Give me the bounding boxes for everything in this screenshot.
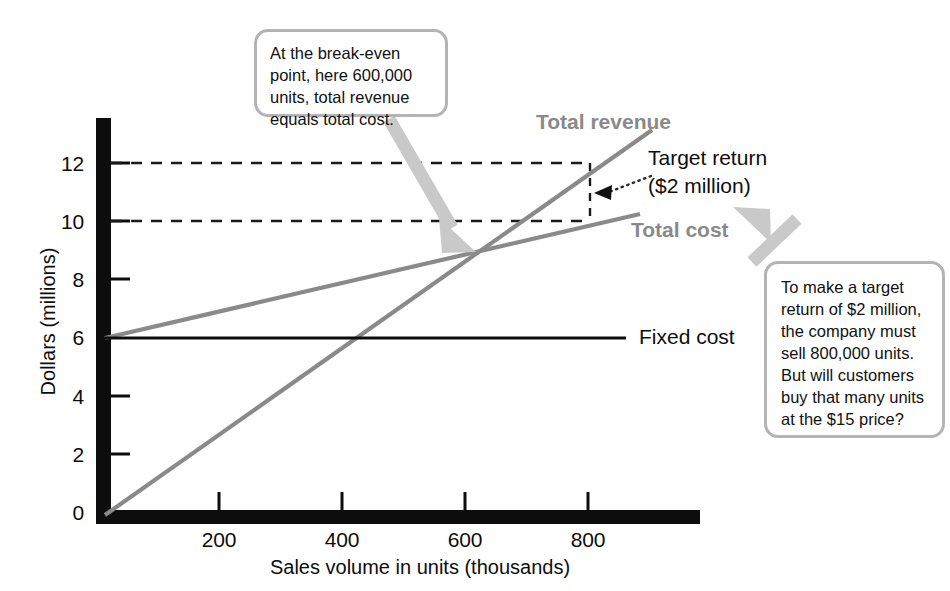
total-revenue-line: [105, 130, 652, 515]
x-tick-label-600: 600: [430, 528, 500, 552]
callout-target-return: To make a target return of $2 million, t…: [764, 261, 945, 438]
x-tick-label-800: 800: [553, 528, 623, 552]
x-axis-spine: [96, 510, 700, 524]
fixed-cost-label: Fixed cost: [639, 325, 735, 349]
target-return-label-line2: ($2 million): [648, 173, 751, 200]
y-axis-title: Dollars (millions): [37, 212, 60, 432]
y-tick-label-12: 12: [38, 152, 84, 176]
y-axis-spine: [96, 118, 111, 518]
y-tick-label-0: 0: [38, 501, 84, 525]
callout-target-return-text: To make a target return of $2 million, t…: [781, 277, 928, 431]
x-tick-label-400: 400: [307, 528, 377, 552]
target-pointer-arrow: [733, 207, 797, 262]
x-axis-ticks: [219, 492, 588, 511]
breakeven-chart-figure: 12 10 8 6 4 2 0 200 400 600 800 Sales vo…: [0, 0, 950, 591]
target-return-label-line1: Target return: [648, 145, 767, 172]
total-cost-line: [105, 214, 640, 338]
x-axis-title: Sales volume in units (thousands): [180, 556, 660, 579]
total-revenue-label: Total revenue: [536, 110, 671, 134]
callout-breakeven-text: At the break-even point, here 600,000 un…: [270, 43, 432, 131]
target-return-leader-line: [609, 176, 651, 192]
x-tick-label-200: 200: [184, 528, 254, 552]
callout-breakeven: At the break-even point, here 600,000 un…: [254, 29, 448, 117]
target-return-arrowhead: [594, 185, 612, 200]
total-cost-label: Total cost: [631, 218, 729, 242]
y-axis-ticks: [111, 163, 130, 454]
y-tick-label-2: 2: [38, 443, 84, 467]
breakeven-pointer-arrow: [389, 119, 476, 253]
